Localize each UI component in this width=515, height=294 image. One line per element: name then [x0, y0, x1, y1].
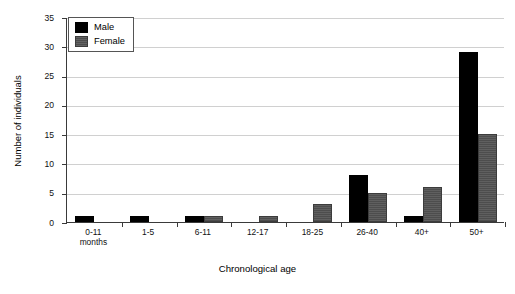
x-axis-tick-label: 1-5 — [121, 228, 176, 238]
y-axis-tick-label: 35 — [20, 14, 54, 23]
bar-group — [450, 18, 505, 222]
chart-legend: Male Female — [68, 17, 134, 52]
bar-male — [459, 52, 478, 222]
y-axis-tick-label: 10 — [20, 160, 54, 169]
bar-male — [130, 216, 149, 222]
bar-group — [177, 18, 232, 222]
x-axis-tick — [396, 222, 397, 227]
bar-group — [341, 18, 396, 222]
x-axis-tick-label: 40+ — [395, 228, 450, 238]
bar-female — [368, 193, 387, 222]
bar-group — [396, 18, 451, 222]
y-axis-title-text: Number of individuals — [12, 75, 23, 166]
legend-label-male: Male — [94, 23, 114, 32]
x-axis-tick-label: 18-25 — [285, 228, 340, 238]
bar-female — [204, 216, 223, 222]
bar-female — [478, 134, 497, 222]
legend-swatch-female-icon — [75, 36, 88, 47]
legend-item-male: Male — [75, 22, 125, 33]
x-axis-tick — [177, 222, 178, 227]
legend-item-female: Female — [75, 36, 125, 47]
x-axis-tick-label: 26-40 — [340, 228, 395, 238]
y-axis-tick-label: 5 — [20, 189, 54, 198]
x-axis-tick-label: 12-17 — [230, 228, 285, 238]
bar-male — [75, 216, 94, 222]
bar-female — [259, 216, 278, 222]
x-axis-tick-label: 50+ — [449, 228, 504, 238]
x-axis-tick — [505, 222, 506, 227]
x-axis-tick-label: 0-11months — [66, 228, 121, 247]
legend-label-female: Female — [94, 37, 125, 46]
x-axis-tick — [450, 222, 451, 227]
bar-female — [423, 187, 442, 222]
x-axis-tick — [122, 222, 123, 227]
bar-male — [349, 175, 368, 222]
bar-group — [286, 18, 341, 222]
bar-female — [313, 204, 332, 222]
x-axis-tick — [231, 222, 232, 227]
bar-male — [185, 216, 204, 222]
y-axis-tick-label: 20 — [20, 101, 54, 110]
y-axis-tick — [62, 223, 67, 224]
x-axis-tick — [286, 222, 287, 227]
chart-figure: Number of individuals 05101520253035 0-1… — [0, 0, 515, 294]
y-axis-tick-label: 0 — [20, 219, 54, 228]
x-axis-title: Chronological age — [0, 263, 515, 274]
bar-group — [231, 18, 286, 222]
y-axis-tick-label: 25 — [20, 72, 54, 81]
bar-male — [404, 216, 423, 222]
x-axis-tick-label: 6-11 — [176, 228, 231, 238]
y-axis-tick-label: 30 — [20, 43, 54, 52]
legend-swatch-male-icon — [75, 22, 88, 33]
x-axis-tick — [341, 222, 342, 227]
y-axis-tick-label: 15 — [20, 131, 54, 140]
